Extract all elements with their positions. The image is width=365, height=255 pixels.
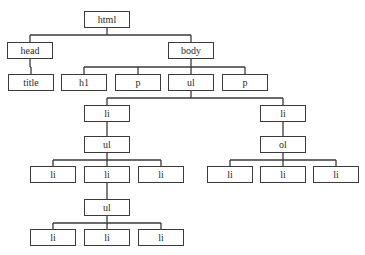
node-label: ul: [187, 78, 195, 88]
node-label: li: [227, 170, 233, 180]
node-ul: ul: [84, 136, 130, 153]
node-li: li: [207, 166, 253, 183]
node-p: p: [115, 74, 161, 91]
node-li: li: [84, 105, 130, 122]
node-label: ul: [103, 203, 111, 213]
node-label: p: [136, 78, 141, 88]
node-ol: ol: [260, 136, 306, 153]
node-label: li: [280, 109, 286, 119]
node-li: li: [260, 166, 306, 183]
node-li: li: [313, 166, 359, 183]
node-label: ul: [103, 140, 111, 150]
node-h1: h1: [61, 74, 107, 91]
tree-connectors: [0, 0, 365, 255]
node-ul: ul: [168, 74, 214, 91]
node-li: li: [30, 166, 76, 183]
node-label: body: [181, 46, 201, 56]
node-label: h1: [79, 78, 89, 88]
node-label: li: [104, 109, 110, 119]
node-label: ol: [279, 140, 287, 150]
node-body: body: [168, 42, 214, 59]
node-label: html: [98, 15, 116, 25]
node-label: head: [21, 46, 40, 56]
node-label: title: [23, 78, 39, 88]
node-li: li: [260, 105, 306, 122]
node-label: li: [50, 233, 56, 243]
node-html: html: [84, 11, 130, 28]
node-label: li: [104, 170, 110, 180]
node-head: head: [7, 42, 53, 59]
node-label: li: [158, 233, 164, 243]
node-p: p: [222, 74, 268, 91]
node-label: li: [333, 170, 339, 180]
node-title: title: [8, 74, 54, 91]
dom-tree-diagram: html head body title h1 p ul p li li ul …: [0, 0, 365, 255]
node-label: li: [158, 170, 164, 180]
node-ul: ul: [84, 199, 130, 216]
node-li: li: [84, 229, 130, 246]
node-li: li: [138, 166, 184, 183]
node-li: li: [84, 166, 130, 183]
node-li: li: [138, 229, 184, 246]
node-label: p: [243, 78, 248, 88]
node-label: li: [104, 233, 110, 243]
node-li: li: [30, 229, 76, 246]
node-label: li: [280, 170, 286, 180]
node-label: li: [50, 170, 56, 180]
